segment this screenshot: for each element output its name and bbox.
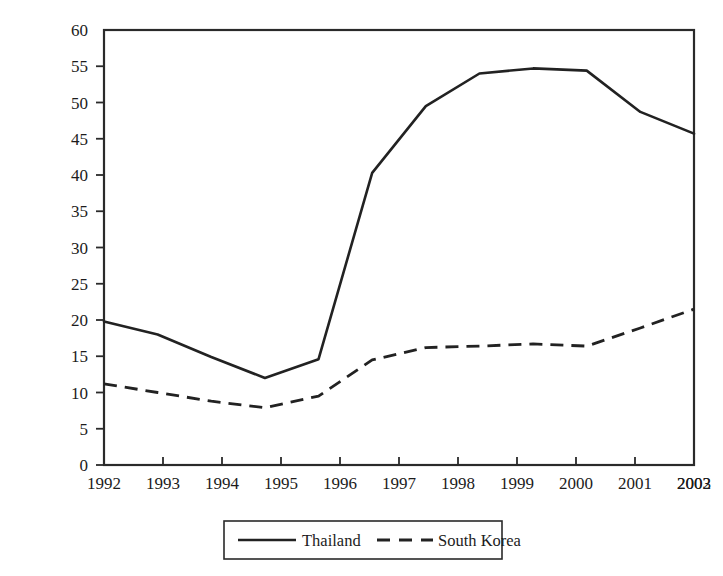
y-axis-label: 30: [71, 239, 88, 258]
y-axis-label: 10: [71, 384, 88, 403]
series-line-thailand: [104, 68, 694, 378]
y-axis-label: 25: [71, 275, 88, 294]
x-axis-label: 1997: [382, 474, 417, 493]
legend-label-south-korea: South Korea: [438, 531, 522, 550]
x-axis-label: 1998: [441, 474, 475, 493]
y-axis-label: 45: [71, 130, 88, 149]
y-axis-label: 40: [71, 166, 88, 185]
series-line-south-korea: [104, 309, 694, 408]
y-axis-label: 35: [71, 202, 88, 221]
x-axis-label: 2000: [559, 474, 593, 493]
x-axis-label: 1992: [87, 474, 121, 493]
data-series-group: [104, 68, 694, 407]
x-axis-label: 1995: [264, 474, 298, 493]
legend-label-thailand: Thailand: [302, 531, 361, 550]
y-axis-label: 50: [71, 94, 88, 113]
chart-figure: 0 5 10 15 20 25 30 35 40 45 50 55 60: [0, 0, 723, 576]
x-axis-label-last: 2003: [677, 474, 711, 493]
legend: Thailand South Korea: [224, 521, 522, 559]
y-axis-ticks: [96, 66, 104, 465]
y-axis-label: 15: [71, 347, 88, 366]
x-axis-labels: 1992 1993 1994 1995 1996 1997 1998 1999 …: [87, 474, 711, 493]
line-chart: 0 5 10 15 20 25 30 35 40 45 50 55 60: [0, 0, 723, 576]
y-axis-labels: 0 5 10 15 20 25 30 35 40 45 50 55 60: [71, 21, 88, 475]
y-axis-label: 5: [80, 420, 89, 439]
y-axis-label: 55: [71, 57, 88, 76]
x-axis-label: 1994: [205, 474, 240, 493]
y-axis-label: 20: [71, 311, 88, 330]
x-axis-ticks: [163, 457, 635, 465]
x-axis-label: 1999: [500, 474, 534, 493]
y-axis-label: 0: [80, 456, 89, 475]
x-axis-label: 1996: [323, 474, 357, 493]
plot-area-border: [104, 30, 694, 465]
x-axis-label: 2001: [618, 474, 652, 493]
y-axis-label: 60: [71, 21, 88, 40]
plot-frame: [104, 30, 694, 465]
x-axis-label: 1993: [146, 474, 180, 493]
